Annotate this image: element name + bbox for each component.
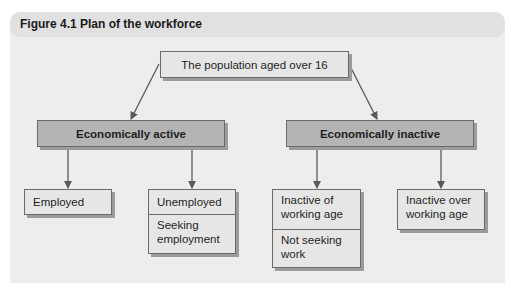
node-label: The population aged over 16	[181, 59, 327, 71]
node-economically-active: Economically active	[37, 120, 225, 147]
figure-header: Figure 4.1 Plan of the workforce	[10, 12, 505, 37]
node-inactive-of-working-age: Inactive of working age Not seeking work	[272, 189, 361, 268]
node-label: Employed	[25, 190, 111, 212]
node-inactive-over-working-age: Inactive over working age	[397, 189, 485, 230]
figure-title: Figure 4.1 Plan of the workforce	[20, 17, 202, 31]
node-sublabel: Not seeking work	[273, 229, 360, 264]
node-unemployed: Unemployed Seeking employment	[148, 189, 236, 254]
node-sublabel: Seeking employment	[149, 214, 235, 249]
node-label: Economically inactive	[320, 128, 440, 140]
node-employed: Employed	[24, 189, 112, 215]
node-economically-inactive: Economically inactive	[286, 120, 474, 147]
node-label: Inactive of working age	[273, 190, 360, 229]
node-label: Unemployed	[149, 190, 235, 214]
node-label: Inactive over working age	[398, 190, 484, 224]
node-label: Economically active	[76, 128, 186, 140]
node-population-over-16: The population aged over 16	[160, 51, 349, 78]
